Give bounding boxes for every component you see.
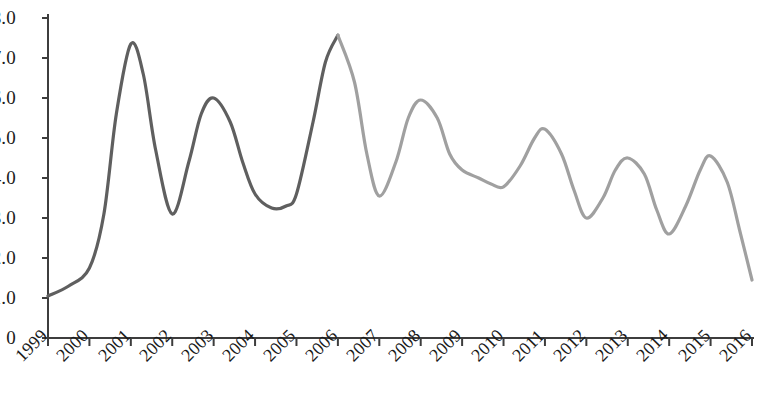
x-axis-tick-label: 2014 bbox=[633, 326, 672, 365]
x-axis-tick-label: 2011 bbox=[509, 326, 547, 364]
line-chart: 8.07.06.05.04.03.02.01.00 19992000200120… bbox=[0, 0, 768, 398]
x-axis-tick-label: 2004 bbox=[219, 326, 258, 365]
x-axis-tick-label: 2013 bbox=[592, 326, 631, 365]
x-axis-tick-label: 1999 bbox=[12, 326, 51, 365]
x-axis-tick-label: 2008 bbox=[385, 326, 424, 365]
x-axis-tick-label: 2005 bbox=[260, 326, 299, 365]
x-axis-tick-label: 2003 bbox=[178, 326, 217, 365]
x-axis-tick-label: 2000 bbox=[53, 326, 92, 365]
x-axis-tick-label: 2001 bbox=[95, 326, 134, 365]
x-axis-tick-label: 2002 bbox=[136, 326, 175, 365]
x-axis-tick-label: 2016 bbox=[716, 326, 755, 365]
x-axis-tick-label: 2009 bbox=[426, 326, 465, 365]
x-axis-tick-label: 2012 bbox=[550, 326, 589, 365]
x-axis-tick-label: 2010 bbox=[468, 326, 507, 365]
x-axis-tick-label: 2006 bbox=[302, 326, 341, 365]
x-axis-tick-label: 2007 bbox=[343, 326, 382, 365]
x-axis-tick-label-group: 1999200020012002200320042005200620072008… bbox=[0, 0, 768, 398]
x-axis-tick-label: 2015 bbox=[675, 326, 714, 365]
